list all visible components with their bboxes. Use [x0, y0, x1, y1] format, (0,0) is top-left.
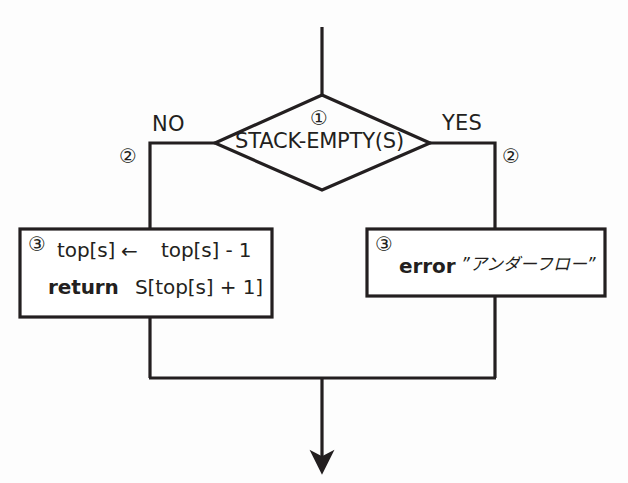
process-left-line1-lhs: top[s] — [57, 240, 115, 260]
process-right-error-message: ”アンダーフロー” — [461, 256, 596, 273]
branch-label-yes: YES — [442, 113, 482, 134]
process-left-line1-rhs: top[s] - 1 — [161, 240, 251, 260]
process-right-step-marker: ③ — [375, 234, 393, 254]
process-left-step-marker: ③ — [28, 234, 46, 254]
assignment-arrow-icon: ← — [121, 241, 138, 261]
flowchart-canvas: ① STACK-EMPTY(S) NO ② YES ② ③ top[s] ← t… — [0, 0, 628, 483]
process-right-keyword-error: error — [399, 256, 455, 276]
no-branch-step-marker: ② — [119, 146, 137, 166]
yes-branch-step-marker: ② — [502, 146, 520, 166]
decision-condition-text: STACK-EMPTY(S) — [235, 131, 404, 152]
process-left-return-expression: S[top[s] + 1] — [135, 277, 263, 297]
no-branch-connector — [150, 143, 215, 229]
decision-step-marker: ① — [310, 108, 328, 128]
branch-label-no: NO — [152, 114, 185, 135]
process-left-keyword-return: return — [48, 277, 119, 297]
yes-branch-connector — [430, 143, 495, 229]
